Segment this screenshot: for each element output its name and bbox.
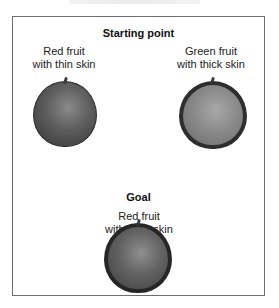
stem-icon bbox=[63, 77, 68, 85]
faded-header-text bbox=[70, 0, 200, 4]
fruit-caption-green-thick: Green fruit with thick skin bbox=[161, 45, 261, 71]
caption-line: with thin skin bbox=[14, 58, 114, 71]
red-thin-skin-fruit-icon bbox=[33, 81, 97, 147]
red-thick-skin-fruit-icon bbox=[104, 223, 172, 293]
starting-point-heading: Starting point bbox=[13, 27, 264, 39]
caption-line: Green fruit bbox=[161, 45, 261, 58]
diagram-panel: Starting point Red fruit with thin skin … bbox=[12, 16, 265, 296]
stem-icon bbox=[210, 77, 215, 85]
caption-line: Red fruit bbox=[14, 45, 114, 58]
goal-heading: Goal bbox=[13, 191, 264, 203]
green-thick-skin-fruit-icon bbox=[179, 81, 247, 149]
fruit-caption-red-thin: Red fruit with thin skin bbox=[14, 45, 114, 71]
stem-icon bbox=[136, 219, 141, 227]
caption-line: with thick skin bbox=[161, 58, 261, 71]
